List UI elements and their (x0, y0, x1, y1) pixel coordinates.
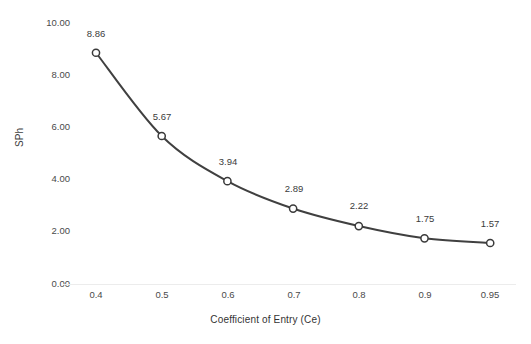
data-point-marker (355, 222, 362, 229)
data-label-4: 2.22 (329, 200, 389, 211)
data-label-0: 8.86 (66, 28, 126, 39)
data-point-marker (92, 49, 99, 56)
x-tick-label-0: 0.4 (68, 289, 124, 300)
data-label-5: 1.75 (395, 213, 455, 224)
x-tick-label-5: 0.9 (397, 289, 453, 300)
data-point-marker (158, 132, 165, 139)
data-label-1: 5.67 (132, 111, 192, 122)
x-tick-label-1: 0.5 (134, 289, 190, 300)
data-label-2: 3.94 (198, 156, 258, 167)
x-tick-label-4: 0.8 (331, 289, 387, 300)
data-point-marker (487, 239, 494, 246)
x-tick-label-3: 0.7 (266, 289, 322, 300)
x-axis-title: Coefficient of Entry (Ce) (0, 314, 531, 325)
data-point-marker (224, 178, 231, 185)
data-label-3: 2.89 (264, 183, 324, 194)
x-tick-label-6: 0.95 (462, 289, 518, 300)
chart-container: SPh 10.00 8.00 6.00 4.00 2.00 0.00 8.86 … (0, 0, 531, 344)
data-label-6: 1.57 (460, 218, 520, 229)
data-point-marker (421, 235, 428, 242)
data-point-marker (290, 205, 297, 212)
x-tick-label-2: 0.6 (200, 289, 256, 300)
